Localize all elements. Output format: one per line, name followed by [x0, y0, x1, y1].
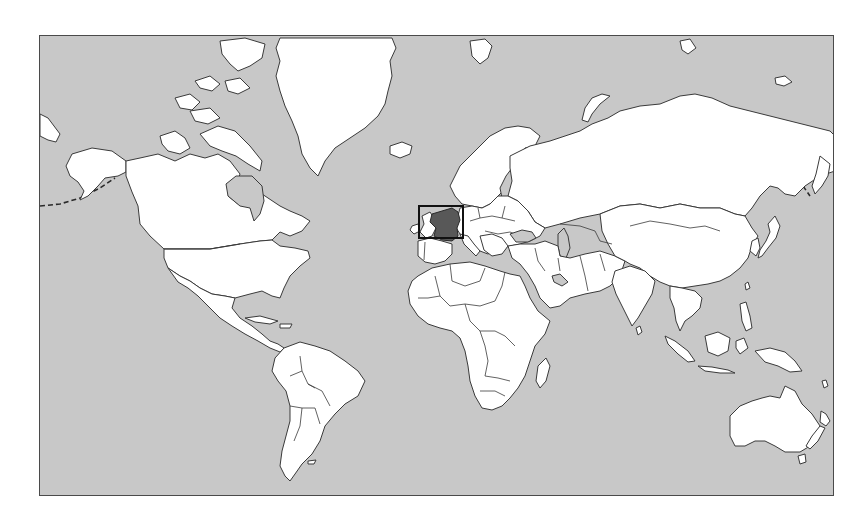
- landmass-japan: [758, 216, 780, 258]
- landmass-canada: [126, 154, 310, 249]
- landmass-cuba: [245, 316, 278, 324]
- landmass-philippines: [740, 302, 752, 331]
- landmass-ellesmere-island: [220, 38, 265, 71]
- landmass-indochina: [670, 286, 702, 331]
- landmass-arctic-islands-4: [195, 76, 220, 91]
- landmass-south-america: [272, 342, 365, 481]
- landmass-java: [698, 366, 735, 373]
- landmass-arctic-islands-2: [175, 94, 200, 110]
- landmass-pacific-islands: [822, 380, 828, 388]
- landmass-madagascar: [536, 358, 550, 388]
- landmass-greenland: [276, 38, 396, 176]
- landmass-tasmania: [798, 454, 806, 464]
- landmass-severnaya-zemlya: [680, 39, 696, 54]
- landmass-arctic-islands-3: [190, 108, 220, 124]
- landmass-africa: [408, 262, 550, 410]
- landmass-sumatra: [665, 336, 695, 362]
- landmass-sri-lanka: [636, 326, 642, 335]
- country-france-highlight[interactable]: [430, 208, 460, 241]
- landmass-borneo: [705, 332, 730, 356]
- landmass-sulawesi: [736, 338, 748, 354]
- landmass-new-zealand-north: [820, 411, 830, 426]
- landmass-arctic-islands-1: [160, 131, 190, 154]
- landmass-iberia: [418, 238, 452, 264]
- landmass-new-guinea: [755, 348, 802, 372]
- landmass-chukotka-west: [40, 114, 60, 142]
- landmass-taiwan: [745, 282, 750, 290]
- landmass-iceland: [390, 142, 412, 158]
- landmass-falklands: [308, 460, 316, 464]
- landmass-australia: [730, 386, 820, 452]
- landmass-arctic-islands-5: [225, 78, 250, 94]
- landmass-new-siberian-islands: [775, 76, 792, 86]
- map-canvas[interactable]: [40, 36, 834, 496]
- landmass-novaya-zemlya: [582, 94, 610, 122]
- landmass-svalbard: [470, 39, 492, 64]
- landmass-alaska: [66, 148, 126, 200]
- landmass-india: [612, 266, 655, 326]
- world-map[interactable]: World map: [39, 35, 834, 496]
- landmass-hispaniola: [280, 324, 292, 328]
